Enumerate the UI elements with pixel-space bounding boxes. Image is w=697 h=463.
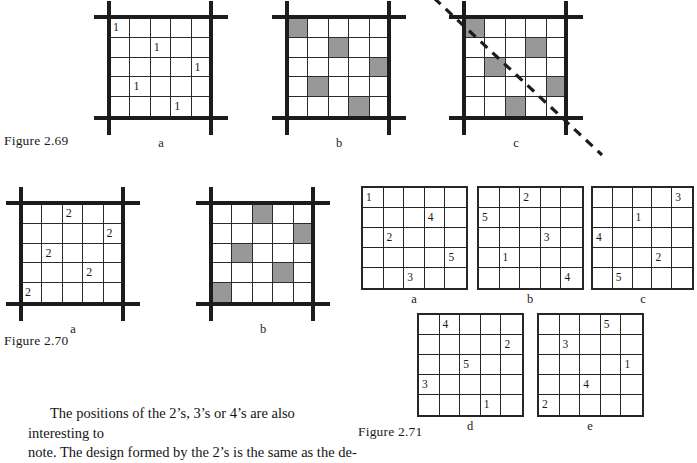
grid-cell-r1-c4 [83,204,103,224]
frame-bar-left [462,1,466,135]
grid-cell-value: 1 [133,77,139,96]
grid-cell-r1-c1 [539,315,560,335]
grid-cells [465,18,567,117]
grid-cell-r3-c4 [273,244,293,264]
grid-cell-r4-c2 [232,263,252,283]
grid-cell-r5-c3 [633,268,653,288]
grid-cell-r3-c3 [63,244,83,264]
grid-cell-r2-c5 [445,208,466,228]
figure-2-71-panel-a: 14253 [361,186,468,290]
grid-cell-r4-c2 [384,248,405,268]
grid-cell-r1-c4 [273,204,293,224]
grid-cell-r2-c1 [593,208,613,228]
grid-cell-r4-c4 [171,77,191,97]
grid-cell-r4-c5: 5 [445,248,466,268]
grid-cell-r4-c2 [613,248,633,268]
grid-cell-value: 1 [154,38,160,57]
grid-cell-r1-c3: 2 [63,204,83,224]
grid-cell-r5-c1 [363,268,384,288]
frame-bar-bottom [6,302,140,306]
grid-cell-r3-c3 [253,244,273,264]
grid-cell-r2-c1 [539,335,560,355]
figure-2-69-panel-a: 11111 [110,18,212,117]
grid-cell-r2-c3 [253,224,273,244]
figure-2-70-panel-a: 22222 [22,204,124,303]
grid-cell-r5-c1 [593,268,613,288]
grid-cell-r3-c2: 2 [384,228,405,248]
grid-cell-r2-c3 [63,224,83,244]
grid-cell-r2-c4 [349,38,369,58]
grid-cell-r4-c1 [479,248,500,268]
panel-letter-2-69-b: b [329,136,349,151]
grid-cells: 22222 [22,204,124,303]
grid-cell-r4-c1 [212,263,232,283]
grid-cell-r5-c1: 2 [539,395,560,415]
grid-cell-r5-c3 [63,283,83,303]
grid-cell-r5-c2 [440,395,461,415]
grid-cell-r1-c2 [308,18,328,38]
grid-cell-r2-c3: 1 [633,208,653,228]
grid-cell-r5-c1: 2 [22,283,42,303]
grid-cell-r5-c3 [520,268,541,288]
figure-2-71-panel-b: 25314 [477,186,584,290]
grid-cell-r4-c1: 3 [419,375,440,395]
grid-cell-value: 5 [463,354,469,375]
panel-letter-2-69-a: a [151,136,171,151]
grid-cell-r5-c3 [253,283,273,303]
grid-cell-r4-c3 [506,77,526,97]
grid-cell-value: 4 [428,207,434,228]
grid-cells: 11111 [110,18,212,117]
grid-cell-value: 3 [675,187,681,208]
grid-cell-value: 1 [484,394,490,415]
grid-cell-value: 5 [482,207,488,228]
grid-cell-r1-c1 [479,188,500,208]
grid-cell-r1-c5 [621,315,642,335]
grid-cell-shaded-r2-c3 [329,38,349,58]
grid-cell-r3-c3 [506,58,526,78]
grid-cell-value: 1 [624,354,630,375]
grid-cell-r2-c5 [621,335,642,355]
grid-cell-r4-c1 [465,77,485,97]
frame-bar-right [311,187,315,321]
grid-cell-r2-c4 [83,224,103,244]
grid-cell-shaded-r3-c2 [485,58,505,78]
grid-cell-r5-c3 [329,97,349,117]
grid-cell-r1-c4: 5 [601,315,622,335]
grid-cell-r3-c1 [479,228,500,248]
grid-cell-value: 2 [387,227,393,248]
grid-cell-r4-c1 [288,77,308,97]
grid-cell-r1-c1: 1 [110,18,130,38]
grid-cell-value: 2 [655,247,661,268]
grid-cell-r2-c3 [520,208,541,228]
grid-cell-shaded-r4-c4 [273,263,293,283]
figure-2-70-panel-b [212,204,314,303]
grid-cell-shaded-r1-c3 [253,204,273,224]
grid-cell-r4-c4 [425,248,446,268]
frame-bar-top [6,201,140,205]
grid-cell-r4-c1 [593,248,613,268]
grid-cell-r1-c5 [501,315,522,335]
grid-cell-r5-c2 [485,97,505,117]
frame-bar-left [107,1,111,135]
grid-cell-r4-c1 [22,263,42,283]
grid-cell-r5-c4: 1 [481,395,502,415]
body-line-1: The positions of the 2’s, 3’s or 4’s are… [28,405,295,441]
grid-cell-r5-c3 [580,395,601,415]
body-paragraph: The positions of the 2’s, 3’s or 4’s are… [28,404,358,463]
grid-cell-value: 1 [366,187,372,208]
grid-cell-r2-c2: 3 [560,335,581,355]
grid-cell-r2-c1 [363,208,384,228]
grid-cell-value: 1 [174,97,180,116]
grid-cell-r1-c3: 2 [520,188,541,208]
grid-cell-value: 2 [542,394,548,415]
grid-cell-r3-c2 [560,355,581,375]
grid-cell-r1-c4 [481,315,502,335]
grid-cell-r3-c1 [539,355,560,375]
grid-cell-value: 1 [195,58,201,77]
grid-cell-r4-c4: 2 [652,248,672,268]
grid-cell-r3-c4 [526,58,546,78]
figure-2-69-panel-b [288,18,390,117]
grid-cell-r2-c1: 5 [479,208,500,228]
grid-cell-r4-c5 [501,375,522,395]
grid-cell-r3-c5 [501,355,522,375]
